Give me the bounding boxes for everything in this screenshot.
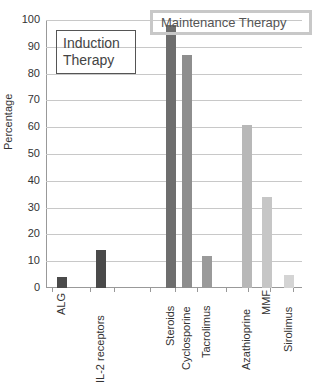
x-tick xyxy=(52,288,53,292)
x-tick xyxy=(175,288,176,292)
maintenance-therapy-label: Maintenance Therapy xyxy=(150,10,312,35)
y-tick-label: 60 xyxy=(0,120,40,132)
x-tick-label: Sirolimus xyxy=(282,307,294,352)
x-tick-label: Tacrolimus xyxy=(200,305,212,358)
x-tick-label: ALG xyxy=(55,293,67,315)
x-tick-label: IL-2 receptors xyxy=(94,315,106,383)
induction-text: Induction Therapy xyxy=(63,35,120,68)
y-tick-label: 0 xyxy=(0,281,40,293)
induction-therapy-label: Induction Therapy xyxy=(56,30,136,74)
bar-steroids xyxy=(166,25,176,288)
y-tick-label: 30 xyxy=(0,201,40,213)
bar-il-2-receptors xyxy=(96,250,106,288)
x-tick-label: Azathioprine xyxy=(240,309,252,370)
bar-sirolimus xyxy=(284,275,294,288)
x-tick xyxy=(114,288,115,292)
x-tick xyxy=(293,288,294,292)
bar-azathioprine xyxy=(242,125,252,288)
y-tick-label: 70 xyxy=(0,93,40,105)
y-tick-label: 50 xyxy=(0,147,40,159)
y-tick-label: 100 xyxy=(0,13,40,25)
x-tick xyxy=(248,288,249,292)
y-tick-label: 90 xyxy=(0,40,40,52)
bar-tacrolimus xyxy=(202,256,212,288)
bar-cyclosporine xyxy=(182,55,192,288)
x-tick-label: MMF xyxy=(260,290,272,315)
x-tick xyxy=(90,288,91,292)
y-tick-label: 80 xyxy=(0,67,40,79)
y-tick-label: 40 xyxy=(0,174,40,186)
bar-alg xyxy=(57,277,67,288)
x-tick xyxy=(226,288,227,292)
bar-mmf xyxy=(262,197,272,288)
x-tick-label: Steroids xyxy=(164,305,176,345)
x-tick xyxy=(150,288,151,292)
y-tick-label: 20 xyxy=(0,227,40,239)
maintenance-text: Maintenance Therapy xyxy=(161,15,287,30)
y-tick-label: 10 xyxy=(0,254,40,266)
x-tick xyxy=(197,288,198,292)
x-tick-label: Cyclosporine xyxy=(180,307,192,371)
